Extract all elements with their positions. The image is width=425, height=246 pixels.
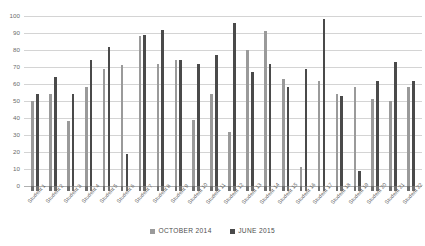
bar-group — [205, 16, 223, 186]
y-tick-label: 50 — [0, 98, 20, 104]
bar-june — [412, 81, 415, 186]
bar-june — [36, 94, 39, 186]
x-label-cell: Student 4 — [80, 191, 98, 225]
x-label-cell: Student 9 — [169, 191, 187, 225]
bar-june — [394, 62, 397, 186]
bar-group — [116, 16, 134, 186]
bar-group — [348, 16, 366, 186]
bar-group — [151, 16, 169, 186]
bar-october — [67, 121, 70, 186]
bar-june — [72, 94, 75, 186]
bar-october — [31, 101, 34, 186]
bar-october — [282, 79, 285, 186]
x-label-cell: Student 8 — [151, 191, 169, 225]
legend-label: October 2014 — [158, 228, 211, 235]
bar-group — [169, 16, 187, 186]
bar-october — [246, 50, 249, 186]
y-tick-label: 70 — [0, 64, 20, 70]
bar-october — [318, 81, 321, 186]
x-label-cell: Student 20 — [366, 191, 384, 225]
bar-june — [143, 35, 146, 186]
bar-group — [80, 16, 98, 186]
bar-june — [269, 64, 272, 186]
plot-area — [24, 16, 422, 186]
x-label-cell: Student 14 — [259, 191, 277, 225]
y-tick-label: 60 — [0, 81, 20, 87]
x-label-cell: Student 18 — [330, 191, 348, 225]
bar-group — [98, 16, 116, 186]
x-label-cell: Student 6 — [116, 191, 134, 225]
bar-october — [371, 99, 374, 186]
bar-october — [49, 94, 52, 186]
bar-group — [402, 16, 420, 186]
bar-june — [305, 69, 308, 186]
bar-october — [300, 167, 303, 186]
bar-october — [103, 69, 106, 186]
y-tick-label: 40 — [0, 115, 20, 121]
bar-june — [287, 87, 290, 186]
bar-series-container — [24, 16, 422, 186]
bar-october — [139, 36, 142, 186]
bar-october — [389, 101, 392, 186]
bar-october — [121, 65, 124, 186]
bar-group — [384, 16, 402, 186]
y-axis-labels: 1009080706050403020100 — [0, 16, 22, 186]
x-label-cell: Student 7 — [133, 191, 151, 225]
y-tick-label: 90 — [0, 30, 20, 36]
bar-group — [295, 16, 313, 186]
bar-group — [223, 16, 241, 186]
x-label-cell: Student 1 — [26, 191, 44, 225]
x-label-cell: Student 17 — [313, 191, 331, 225]
bar-october — [228, 132, 231, 186]
y-tick-label: 10 — [0, 166, 20, 172]
y-tick-label: 20 — [0, 149, 20, 155]
legend-item[interactable]: October 2014 — [150, 228, 212, 235]
bar-june — [90, 60, 93, 186]
bar-group — [366, 16, 384, 186]
x-label-cell: Student 11 — [205, 191, 223, 225]
legend-label: June 2015 — [238, 228, 275, 235]
bar-june — [197, 64, 200, 186]
bar-june — [358, 171, 361, 186]
x-label-cell: Student 15 — [277, 191, 295, 225]
bar-group — [330, 16, 348, 186]
x-axis-labels: Student 1Student 2Student 3Student 4Stud… — [24, 191, 422, 225]
bar-group — [259, 16, 277, 186]
y-tick-label: 30 — [0, 132, 20, 138]
chart-legend: October 2014June 2015 — [0, 228, 425, 235]
bar-group — [62, 16, 80, 186]
bar-october — [85, 87, 88, 186]
bar-group — [44, 16, 62, 186]
y-tick-label: 100 — [0, 13, 20, 19]
bar-june — [179, 60, 182, 186]
y-tick-label: 80 — [0, 47, 20, 53]
bar-group — [241, 16, 259, 186]
bar-october — [192, 120, 195, 186]
bar-group — [277, 16, 295, 186]
x-label-cell: Student 12 — [223, 191, 241, 225]
legend-swatch-icon — [150, 229, 155, 234]
bar-october — [354, 87, 357, 186]
legend-swatch-icon — [230, 229, 235, 234]
bar-october — [407, 87, 410, 186]
bar-june — [161, 30, 164, 186]
bar-group — [133, 16, 151, 186]
x-label-cell: Student 10 — [187, 191, 205, 225]
x-label-cell: Student 13 — [241, 191, 259, 225]
bar-group — [26, 16, 44, 186]
bar-group — [313, 16, 331, 186]
x-label-cell: Student 16 — [295, 191, 313, 225]
bar-october — [157, 64, 160, 186]
bar-october — [336, 94, 339, 186]
x-label-cell: Student 3 — [62, 191, 80, 225]
bar-june — [376, 81, 379, 186]
bar-october — [175, 60, 178, 186]
bar-june — [233, 23, 236, 186]
bar-october — [210, 94, 213, 186]
bar-chart: 1009080706050403020100 Student 1Student … — [0, 0, 425, 246]
bar-june — [251, 72, 254, 186]
bar-june — [323, 19, 326, 186]
bar-october — [264, 31, 267, 186]
legend-item[interactable]: June 2015 — [230, 228, 275, 235]
x-label-cell: Student 22 — [402, 191, 420, 225]
